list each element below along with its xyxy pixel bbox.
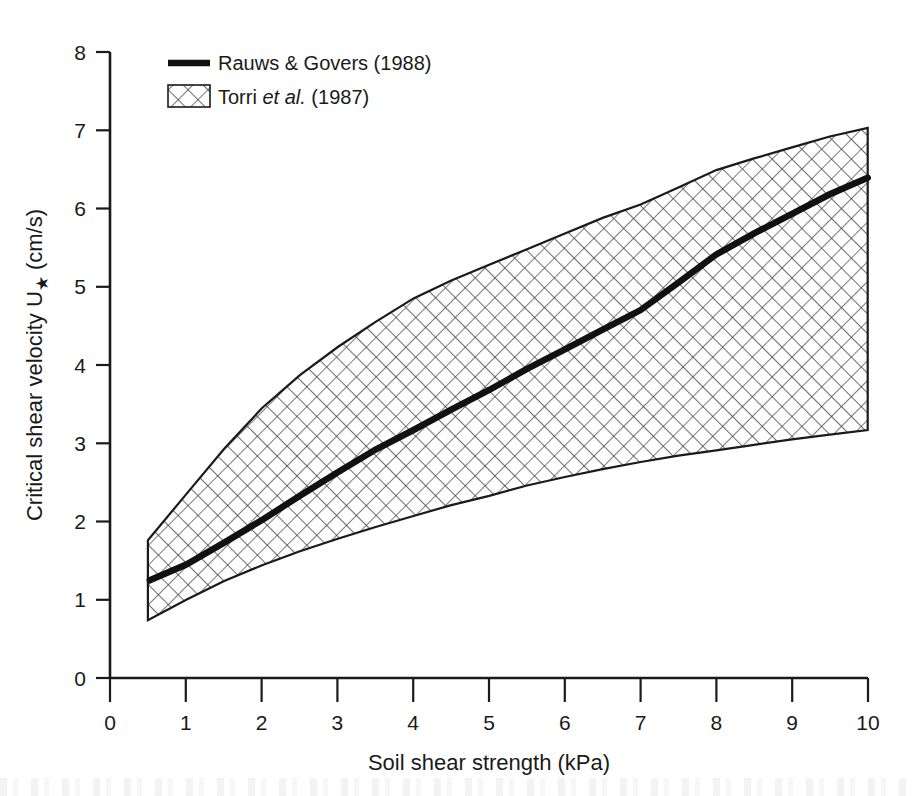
- x-axis-ticks: [110, 678, 868, 702]
- y-tick-label: 1: [74, 588, 86, 611]
- legend-label-torri-italic: et al.: [262, 86, 305, 108]
- y-tick-label: 7: [74, 119, 86, 142]
- legend-label-torri-prefix: Torri: [218, 86, 262, 108]
- x-axis-title: Soil shear strength (kPa): [368, 750, 610, 775]
- chart-canvas: 0 1 2 3 4 5 6 7 8 0 1 2: [0, 0, 912, 796]
- torri-band-area: [148, 128, 868, 620]
- torri-band-path: [148, 128, 868, 620]
- x-tick-label: 0: [104, 711, 116, 734]
- legend-label-torri-suffix: (1987): [306, 86, 369, 108]
- x-tick-label: 3: [332, 711, 344, 734]
- x-tick-label: 10: [856, 711, 879, 734]
- scan-artifact-strip: [0, 778, 912, 796]
- y-axis-title-part1: Critical shear velocity U: [22, 291, 47, 521]
- y-axis-tick-labels: 0 1 2 3 4 5 6 7 8: [74, 41, 86, 690]
- x-tick-label: 5: [483, 711, 495, 734]
- y-tick-label: 5: [74, 275, 86, 298]
- x-tick-label: 9: [786, 711, 798, 734]
- y-tick-label: 6: [74, 197, 86, 220]
- y-axis-title-part2: (cm/s): [22, 209, 47, 276]
- svg-text:Critical shear velocity U★ (cm: Critical shear velocity U★ (cm/s): [22, 209, 52, 521]
- y-axis-title: Critical shear velocity U★ (cm/s): [22, 209, 52, 521]
- y-tick-label: 0: [74, 667, 86, 690]
- y-axis-title-subscript: ★: [33, 276, 52, 291]
- y-tick-label: 4: [74, 354, 86, 377]
- legend-label-rauws-govers: Rauws & Govers (1988): [218, 52, 431, 74]
- x-tick-label: 2: [256, 711, 268, 734]
- legend-swatch-torri: [168, 85, 210, 107]
- legend-label-torri: Torri et al. (1987): [218, 86, 369, 108]
- x-tick-label: 6: [559, 711, 571, 734]
- y-tick-label: 8: [74, 41, 86, 64]
- x-tick-label: 4: [407, 711, 419, 734]
- x-tick-label: 8: [711, 711, 723, 734]
- figure-container: 0 1 2 3 4 5 6 7 8 0 1 2: [0, 0, 912, 796]
- x-axis-tick-labels: 0 1 2 3 4 5 6 7 8 9 10: [104, 711, 880, 734]
- y-tick-label: 2: [74, 510, 86, 533]
- y-tick-label: 3: [74, 432, 86, 455]
- x-tick-label: 7: [635, 711, 647, 734]
- x-tick-label: 1: [180, 711, 192, 734]
- y-axis-ticks: [96, 52, 110, 678]
- legend: Rauws & Govers (1988) Torri et al. (1987…: [168, 52, 431, 108]
